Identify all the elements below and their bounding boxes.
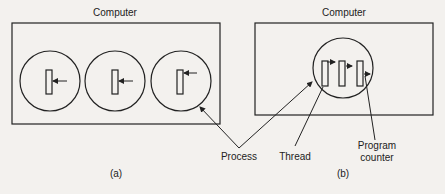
thread-bar [339,61,345,86]
computer-box-b [255,23,433,115]
callouts [200,76,375,148]
process-circle [151,51,211,111]
thread-bar [177,70,183,94]
program-counter-callout-line [365,76,375,140]
computer-label-a: Computer [93,7,138,18]
thread-label: Thread [279,151,311,162]
panel-a: Computer (a) [12,7,220,179]
computer-label-b: Computer [322,7,367,18]
caption-b: (b) [337,168,349,179]
thread-bar [357,61,363,86]
process-label: Process [221,151,257,162]
thread-bar [322,61,328,86]
process-1 [20,51,80,111]
process-circle [85,51,145,111]
process-circle [20,51,80,111]
caption-a: (a) [110,168,122,179]
thread-bar [46,70,52,94]
process-3 [151,51,211,111]
program-counter-label-line2: counter [360,152,394,163]
program-counter-label-line1: Program [358,140,396,151]
diagram-canvas: Computer (a) Computer [0,0,445,194]
process-2 [85,51,145,111]
thread-bar [112,70,118,94]
thread-callout-line [295,87,323,146]
